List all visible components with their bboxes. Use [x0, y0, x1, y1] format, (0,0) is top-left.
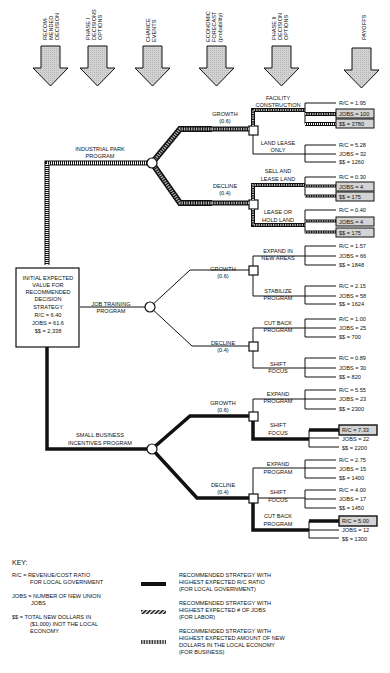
key-definition: JOBS = NUMBER OF NEW UNION	[12, 593, 101, 599]
payoff-jobs: JOBS = 32	[339, 151, 366, 157]
payoff-rc: R/C = 1.57	[339, 243, 366, 249]
legend-text: DOLLARS IN THE LOCAL ECONOMY	[179, 642, 275, 648]
svg-text:CUT BACK: CUT BACK	[264, 513, 292, 519]
payoff-jobs: JOBS = 15	[339, 466, 366, 472]
decision-node	[249, 412, 258, 421]
chance-prob: (0.4)	[219, 190, 231, 196]
svg-text:CUT BACK: CUT BACK	[264, 320, 292, 326]
svg-text:EXPAND: EXPAND	[267, 461, 290, 467]
svg-text:HOLD LAND: HOLD LAND	[262, 217, 294, 223]
payoff-jobs: JOBS = 12	[342, 527, 369, 533]
payoff-dollars: $$ = 1848	[339, 262, 364, 268]
chance-prob: (0.6)	[217, 407, 229, 413]
key-definition: FOR LOCAL GOVERNMENT	[30, 579, 104, 585]
decision-node	[249, 342, 258, 351]
payoff-rc: R/C = 0.40	[339, 207, 366, 213]
key-definition: JOBS	[31, 600, 46, 606]
decision-node	[249, 126, 258, 135]
payoff-jobs: JOBS = 30	[339, 365, 366, 371]
payoff-rc: R/C = 1.00	[339, 316, 366, 322]
legend-text: RECOMMENDED STRATEGY WITH	[179, 572, 271, 578]
header-label-line: EVENTS	[151, 19, 157, 42]
header-label-line: DECISION	[54, 13, 60, 40]
header-arrow-chance	[135, 46, 170, 86]
svg-text:EXPAND: EXPAND	[267, 391, 290, 397]
payoff-jobs: JOBS = 22	[342, 436, 369, 442]
legend-swatch-hatched	[141, 610, 166, 614]
legend-swatch-solid	[141, 582, 166, 586]
header-label-line: PAYOFFS	[361, 14, 367, 40]
payoff-rc: R/C = 4.00	[339, 487, 366, 493]
header-arrow-phase2	[264, 46, 299, 86]
svg-text:FOCUS: FOCUS	[268, 368, 288, 374]
payoff-rc: R/C = 2.15	[339, 283, 366, 289]
chance-label: DECLINE	[211, 340, 236, 346]
payoff-rc: R/C = 7.33	[342, 427, 369, 433]
key-definition: ($1,000) INOT THE LOCAL	[30, 621, 98, 627]
root-line: DECISION	[34, 296, 61, 302]
svg-text:LEASE OR: LEASE OR	[264, 209, 292, 215]
decision-tree-diagram: RECOM- MENDED DECISION PHASE I DECISIONS…	[0, 0, 390, 673]
header-columns: RECOM- MENDED DECISION PHASE I DECISIONS…	[33, 9, 379, 88]
chance-label: GROWTH	[210, 400, 235, 406]
svg-text:SHIFT: SHIFT	[270, 489, 287, 495]
header-arrow-forecast	[199, 46, 234, 86]
payoff-jobs: JOBS = 25	[339, 325, 366, 331]
svg-text:PROGRAM: PROGRAM	[264, 521, 293, 527]
svg-text:ONLY: ONLY	[271, 147, 286, 153]
decision-node	[249, 494, 258, 503]
chance-prob: (0.6)	[217, 273, 229, 279]
root-line: INITIAL EXPECTED	[23, 275, 73, 281]
root-line: VALUE FOR	[32, 282, 63, 288]
header-arrow-phase1	[80, 46, 115, 86]
header-label-line: OPTIONS	[97, 15, 103, 40]
payoff-dollars: $$ = 2200	[342, 445, 367, 451]
payoff-jobs: JOBS = 100	[339, 111, 369, 117]
chance-label: GROWTH	[212, 111, 237, 117]
payoff-dollars: $$ = 1450	[339, 505, 364, 511]
payoff-rc: R/C = 5.28	[339, 142, 366, 148]
payoff-dollars: $$ = 1260	[339, 159, 364, 165]
chance-prob: (0.4)	[217, 489, 229, 495]
chance-label: GROWTH	[210, 266, 235, 272]
header-label-line: OPTIONS	[283, 15, 289, 40]
chance-label: DECLINE	[213, 183, 238, 189]
payoff-rc: R/C = 2.75	[339, 457, 366, 463]
svg-text:FOCUS: FOCUS	[268, 430, 288, 436]
payoff-rc: R/C = 0.89	[339, 355, 366, 361]
industrial-park-branch	[47, 103, 336, 265]
svg-text:EXPAND IN: EXPAND IN	[263, 248, 293, 254]
svg-text:PROGRAM: PROGRAM	[264, 295, 293, 301]
legend-text: HIGHEST EXPECTED # OF JOBS	[179, 607, 266, 613]
payoff-dollars: $$ = 1400	[339, 475, 364, 481]
svg-text:FOCUS: FOCUS	[268, 497, 288, 503]
legend-text: RECOMMENDED STRATEGY WITH	[179, 600, 271, 606]
payoffs: R/C = 1.95 JOBS = 100 $$ = 3780 R/C = 5.…	[336, 100, 377, 542]
payoff-jobs: JOBS = 58	[339, 293, 366, 299]
payoff-jobs: JOBS = 66	[339, 253, 366, 259]
svg-text:PROGRAM: PROGRAM	[264, 398, 293, 404]
svg-text:CONSTRUCTION: CONSTRUCTION	[255, 102, 300, 108]
legend-text: RECOMMENDED STRATEGY WITH	[179, 628, 271, 634]
chance-node	[147, 444, 157, 454]
payoff-rc: R/C = 1.95	[339, 100, 366, 106]
decision-node	[249, 266, 258, 275]
key-definition: $$ = TOTAL NEW DOLLARS IN	[12, 614, 91, 620]
legend-text: (FOR LOCAL GOVERNMENT)	[179, 586, 256, 592]
payoff-dollars: $$ = 820	[339, 374, 361, 380]
decision-node	[249, 200, 258, 209]
root-value-jobs: JOBS = 61.6	[32, 320, 64, 326]
root-value-rc: R/C = 6.40	[35, 312, 62, 318]
payoff-jobs: JOBS = 23	[339, 396, 366, 402]
program-label: JOB TRAINING	[91, 301, 130, 307]
payoff-jobs: JOBS = 4	[339, 184, 363, 190]
chance-node	[147, 158, 157, 168]
legend-text: HIGHEST EXPECTED AMOUNT OF NEW	[179, 635, 285, 641]
payoff-dollars: $$ = 2300	[339, 406, 364, 412]
svg-text:PROGRAM: PROGRAM	[264, 327, 293, 333]
svg-text:FACILITY: FACILITY	[266, 95, 291, 101]
svg-text:PROGRAM: PROGRAM	[264, 469, 293, 475]
chance-label: DECLINE	[211, 482, 236, 488]
program-label: PROGRAM	[86, 153, 115, 159]
svg-text:LAND LEASE: LAND LEASE	[261, 140, 296, 146]
